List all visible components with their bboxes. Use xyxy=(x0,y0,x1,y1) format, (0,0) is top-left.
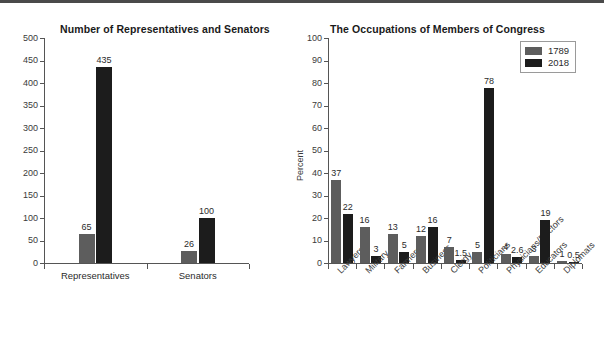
y-tick-label: 450 xyxy=(10,56,38,65)
y-tick-label: 90 xyxy=(294,56,322,65)
chart-right-title: The Occupations of Members of Congress xyxy=(330,23,545,35)
x-tick-mark xyxy=(44,264,45,269)
legend-swatch-1789 xyxy=(525,47,542,55)
x-tick-mark xyxy=(497,264,498,269)
y-tick-mark xyxy=(40,241,44,242)
y-tick-label: 80 xyxy=(294,79,322,88)
legend: 1789 2018 xyxy=(520,41,576,73)
y-tick-mark xyxy=(324,83,328,84)
bar-value-label: 100 xyxy=(192,207,222,216)
y-tick-mark xyxy=(324,151,328,152)
y-tick-label: 50 xyxy=(10,236,38,245)
y-tick-mark xyxy=(40,106,44,107)
y-tick-label: 400 xyxy=(10,79,38,88)
bar-1789-educators xyxy=(529,256,539,263)
y-tick-label: 0 xyxy=(10,259,38,268)
y-tick-label: 100 xyxy=(294,34,322,43)
y-tick-mark xyxy=(324,128,328,129)
y-axis-line xyxy=(44,38,45,264)
chart-left-plot-area: 05010015020025030035040045050065435Repre… xyxy=(44,38,249,263)
y-tick-label: 20 xyxy=(294,214,322,223)
x-tick-mark xyxy=(441,264,442,269)
x-tick-mark xyxy=(469,264,470,269)
y-tick-label: 50 xyxy=(294,146,322,155)
bar-1789-politicians xyxy=(472,252,482,263)
y-tick-label: 150 xyxy=(10,191,38,200)
bar-2018-senators xyxy=(199,218,215,263)
bar-value-label: 435 xyxy=(89,56,119,65)
bar-1789-senators xyxy=(181,251,197,263)
bar-value-label: 19 xyxy=(533,209,557,218)
legend-label-1789: 1789 xyxy=(548,46,569,56)
bar-2018-politicians xyxy=(484,88,494,264)
bar-value-label: 16 xyxy=(421,216,445,225)
y-tick-mark xyxy=(40,151,44,152)
x-tick-mark xyxy=(384,264,385,269)
y-tick-label: 300 xyxy=(10,124,38,133)
x-tick-mark xyxy=(554,264,555,269)
bar-1789-lawyers xyxy=(331,180,341,263)
y-tick-mark xyxy=(40,38,44,39)
x-tick-mark xyxy=(413,264,414,269)
y-tick-mark xyxy=(40,83,44,84)
x-category-label-representatives: Representatives xyxy=(44,271,147,281)
bar-1789-representatives xyxy=(79,234,95,263)
y-tick-label: 0 xyxy=(294,259,322,268)
x-tick-mark xyxy=(328,264,329,269)
bar-value-label: 78 xyxy=(477,77,501,86)
y-tick-label: 350 xyxy=(10,101,38,110)
y-tick-mark xyxy=(324,196,328,197)
y-tick-mark xyxy=(324,61,328,62)
chart-left-title: Number of Representatives and Senators xyxy=(60,23,270,35)
legend-swatch-2018 xyxy=(525,59,542,67)
y-tick-label: 40 xyxy=(294,169,322,178)
y-tick-mark xyxy=(324,241,328,242)
y-tick-mark xyxy=(40,61,44,62)
y-tick-mark xyxy=(40,196,44,197)
bar-value-label: 37 xyxy=(324,169,348,178)
x-tick-mark xyxy=(249,264,250,269)
bar-value-label: 13 xyxy=(381,223,405,232)
bar-2018-representatives xyxy=(96,67,112,263)
x-tick-mark xyxy=(147,264,148,269)
y-tick-mark xyxy=(40,218,44,219)
y-tick-label: 100 xyxy=(10,214,38,223)
y-tick-mark xyxy=(40,128,44,129)
figure-canvas: Number of Representatives and Senators 0… xyxy=(0,0,604,351)
y-tick-label: 200 xyxy=(10,169,38,178)
bar-value-label: 22 xyxy=(336,203,360,212)
bar-value-label: 16 xyxy=(353,216,377,225)
y-tick-label: 10 xyxy=(294,236,322,245)
y-tick-label: 30 xyxy=(294,191,322,200)
x-category-label-senators: Senators xyxy=(147,271,250,281)
legend-item-1789: 1789 xyxy=(525,45,569,57)
y-tick-mark xyxy=(324,106,328,107)
y-tick-label: 250 xyxy=(10,146,38,155)
y-tick-label: 500 xyxy=(10,34,38,43)
y-tick-mark xyxy=(40,173,44,174)
x-tick-mark xyxy=(526,264,527,269)
legend-item-2018: 2018 xyxy=(525,57,569,69)
x-tick-mark xyxy=(356,264,357,269)
y-tick-label: 70 xyxy=(294,101,322,110)
bar-value-label: 7 xyxy=(437,236,461,245)
legend-label-2018: 2018 xyxy=(548,58,569,68)
bar-1789-business xyxy=(416,236,426,263)
y-tick-mark xyxy=(324,38,328,39)
y-axis-line xyxy=(328,38,329,264)
y-tick-mark xyxy=(324,218,328,219)
x-tick-mark xyxy=(582,264,583,269)
y-tick-label: 60 xyxy=(294,124,322,133)
